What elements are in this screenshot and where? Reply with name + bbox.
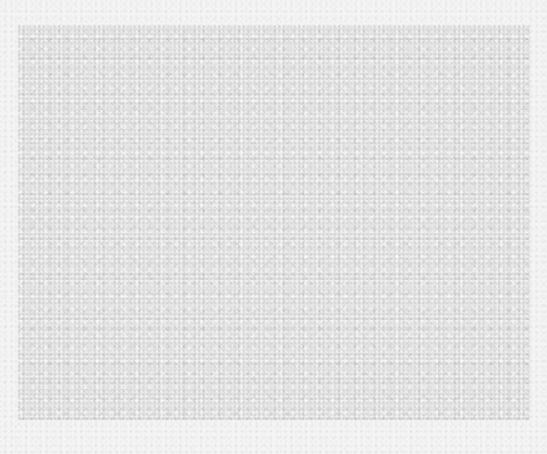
noise-texture-panel bbox=[18, 25, 530, 420]
textured-background bbox=[0, 0, 547, 454]
